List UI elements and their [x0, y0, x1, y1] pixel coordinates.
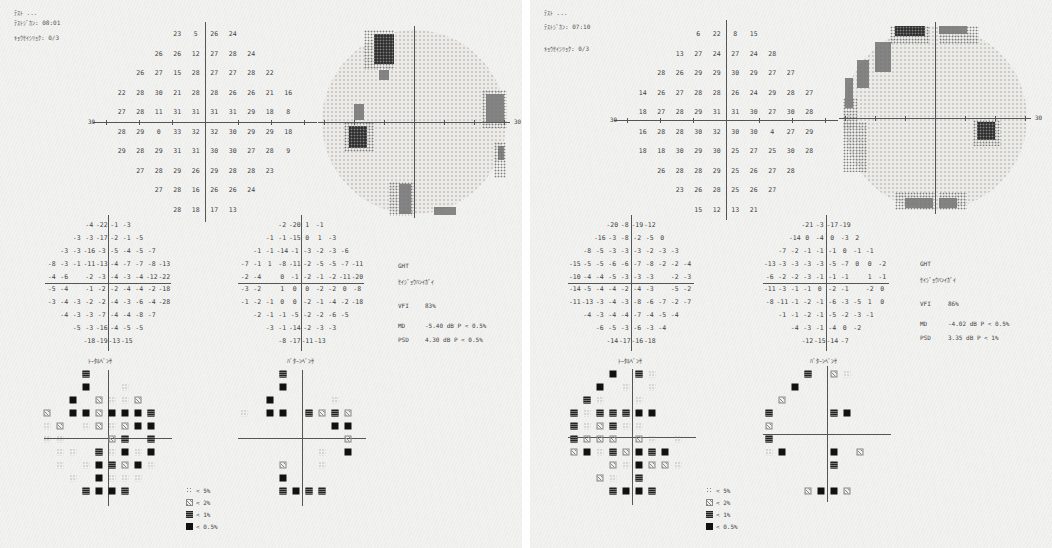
grid-value: -4 [110, 311, 118, 319]
sparse-dot-pattern-icon [43, 435, 50, 442]
grid-value: -3 [608, 247, 616, 255]
grid-value: -3 [123, 221, 131, 229]
dense-grey-square-icon [570, 422, 577, 429]
grid-value: 1 [868, 298, 872, 306]
solid-black-square-icon [108, 487, 115, 494]
grid-value: 15 [173, 69, 181, 77]
hatched-square-icon [778, 396, 785, 403]
grid-value: 24 [247, 186, 255, 194]
grid-value: -7 [341, 260, 349, 268]
hatched-square-icon [95, 409, 102, 416]
grid-value: 30 [155, 89, 163, 97]
solid-black-square-icon [830, 448, 837, 455]
grid-value: -5 [596, 260, 604, 268]
grid-value: -8 [633, 298, 641, 306]
scotoma-patch [939, 26, 979, 44]
grid-value: -3 [841, 234, 849, 242]
axis-tick [106, 120, 107, 125]
grid-value: 30 [731, 69, 739, 77]
grid-value: 18 [192, 206, 200, 214]
grid-value: -1 [316, 221, 324, 229]
grid-value: -4 [253, 273, 261, 281]
sparse-dot-pattern-icon [635, 396, 642, 403]
grid-value: -1 [828, 247, 836, 255]
grid-value: -3 [328, 247, 336, 255]
solid-black-square-icon [344, 422, 351, 429]
grid-value: -3 [646, 273, 654, 281]
grid-value: 11 [155, 108, 163, 116]
grid-value: -3 [303, 247, 311, 255]
grid-value: 22 [266, 69, 274, 77]
grid-value: 28 [713, 89, 721, 97]
axis-tick [660, 118, 661, 123]
hatched-square-icon [570, 448, 577, 455]
grid-value: -11 [764, 285, 776, 293]
grid-value: 24 [750, 50, 758, 58]
sparse-dot-pattern-icon [648, 435, 655, 442]
dense-grey-square-icon [648, 487, 655, 494]
grid-value: 29 [210, 167, 218, 175]
grid-value: 28 [787, 167, 795, 175]
grid-value: 27 [155, 69, 163, 77]
grid-value: -7 [658, 298, 666, 306]
grid-value: -5 [646, 234, 654, 242]
grid-value: 0 [818, 285, 822, 293]
grid-value: -3 [658, 247, 666, 255]
vertical-axis [302, 370, 303, 506]
solid-black-square-icon [186, 523, 193, 530]
grid-value: -4 [633, 285, 641, 293]
grid-value: 26 [136, 69, 144, 77]
legend-label: < 2% [196, 499, 210, 506]
grid-value: -21 [801, 221, 813, 229]
vertical-axis [726, 20, 727, 220]
scotoma-patch [354, 104, 364, 120]
solid-black-square-icon [635, 487, 642, 494]
sparse-dot-pattern-icon [108, 448, 115, 455]
hatched-square-icon [661, 461, 668, 468]
grid-value: 28 [118, 128, 126, 136]
grid-value: 26 [694, 186, 702, 194]
sparse-dot-pattern-icon [82, 461, 89, 468]
md-label: MD [398, 322, 405, 329]
grid-value: -2 [341, 298, 349, 306]
grid-value: -2 [148, 285, 156, 293]
grid-value: -2 [98, 298, 106, 306]
grid-value: 8 [286, 108, 290, 116]
grid-value: -3 [596, 298, 604, 306]
grid-value: -20 [606, 221, 618, 229]
grid-value: -18 [351, 298, 363, 306]
grid-value: -3 [803, 324, 811, 332]
dense-grey-square-icon [82, 487, 89, 494]
grid-value: 28 [173, 206, 181, 214]
scotoma-patch [344, 122, 374, 152]
dense-grey-square-icon [830, 409, 837, 416]
sparse-dot-pattern-icon [648, 383, 655, 390]
fixation-label: ｷｮｳｾｲｼﾘｮｸ: 0/3 [14, 33, 59, 42]
grid-value: 25 [731, 147, 739, 155]
axis-tick [384, 120, 385, 125]
dense-grey-square-icon [95, 448, 102, 455]
grid-value: 0 [805, 234, 809, 242]
hatched-square-icon [648, 461, 655, 468]
grid-value: -2 [803, 298, 811, 306]
hatched-square-icon [622, 448, 629, 455]
grid-value: -4 [328, 298, 336, 306]
grid-value: -5 [328, 260, 336, 268]
grid-value: -3 [85, 234, 93, 242]
vfi-label: VFI [398, 302, 409, 309]
grid-value: -6 [328, 311, 336, 319]
grid-value: 17 [210, 206, 218, 214]
axis-tick [845, 116, 846, 121]
grid-value: -3 [621, 247, 629, 255]
grid-value: 26 [247, 89, 255, 97]
grid-value: -1 [803, 285, 811, 293]
grid-value: 27 [676, 89, 684, 97]
grid-value: -12 [644, 221, 656, 229]
grid-value: 27 [768, 186, 776, 194]
solid-black-square-icon [648, 409, 655, 416]
vfi-value: 86% [948, 300, 959, 307]
grid-value: 26 [750, 167, 758, 175]
hatched-square-icon [95, 422, 102, 429]
grid-value: 13 [731, 206, 739, 214]
solid-black-square-icon [706, 523, 713, 530]
